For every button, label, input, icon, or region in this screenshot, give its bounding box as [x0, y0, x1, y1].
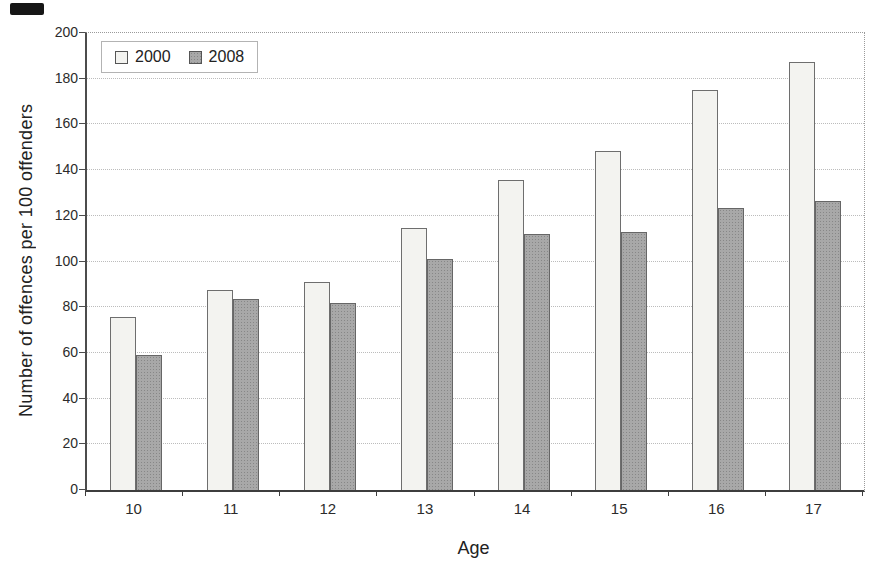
bar-group-age-15: [573, 33, 670, 490]
bar-2008-age-13: [427, 259, 453, 490]
bar-group-age-13: [378, 33, 475, 490]
bar-group-age-16: [670, 33, 767, 490]
legend: 2000 2008: [101, 41, 258, 73]
x-axis-title: Age: [85, 538, 862, 559]
bar-chart: Number of offences per 100 offenders 020…: [0, 0, 885, 569]
bar-2000-age-17: [789, 62, 815, 490]
bar-group-age-12: [281, 33, 378, 490]
x-tick-label-14: 14: [474, 499, 571, 519]
x-tick-label-15: 15: [571, 499, 668, 519]
y-tick-label-80: 80: [2, 298, 78, 314]
bar-2000-age-15: [595, 151, 621, 490]
y-tick-mark-180: [79, 78, 85, 79]
x-tick-label-12: 12: [279, 499, 376, 519]
bar-2000-age-13: [401, 228, 427, 490]
x-tick-mark-7: [765, 491, 766, 496]
x-tick-label-11: 11: [182, 499, 279, 519]
legend-swatch-2000: [115, 51, 128, 64]
y-tick-label-160: 160: [2, 115, 78, 131]
bar-group-age-11: [184, 33, 281, 490]
bar-group-age-17: [767, 33, 864, 490]
bar-2008-age-11: [233, 299, 259, 490]
x-tick-label-17: 17: [765, 499, 862, 519]
y-tick-label-180: 180: [2, 70, 78, 86]
scan-artifact: [10, 3, 44, 15]
x-tick-mark-4: [474, 491, 475, 496]
y-tick-label-120: 120: [2, 207, 78, 223]
bar-2008-age-15: [621, 232, 647, 490]
bar-2000-age-14: [498, 180, 524, 490]
bar-2000-age-10: [110, 317, 136, 490]
y-tick-label-20: 20: [2, 435, 78, 451]
legend-label-2000: 2000: [135, 48, 171, 66]
x-axis-tick-labels: 1011121314151617: [85, 499, 862, 519]
bar-2000-age-16: [692, 90, 718, 490]
x-tick-mark-5: [571, 491, 572, 496]
x-tick-label-10: 10: [85, 499, 182, 519]
x-tick-mark-6: [668, 491, 669, 496]
y-tick-mark-60: [79, 352, 85, 353]
y-tick-label-40: 40: [2, 390, 78, 406]
plot-area: [85, 32, 865, 492]
legend-label-2008: 2008: [209, 48, 245, 66]
y-tick-mark-160: [79, 123, 85, 124]
y-tick-mark-120: [79, 215, 85, 216]
y-tick-label-60: 60: [2, 344, 78, 360]
y-tick-mark-200: [79, 32, 85, 33]
x-tick-mark-8: [862, 491, 863, 496]
bar-2000-age-12: [304, 282, 330, 490]
bar-2000-age-11: [207, 290, 233, 490]
y-tick-mark-40: [79, 398, 85, 399]
x-tick-mark-1: [182, 491, 183, 496]
y-tick-mark-20: [79, 443, 85, 444]
bar-group-age-14: [476, 33, 573, 490]
bar-2008-age-14: [524, 234, 550, 490]
y-tick-label-200: 200: [2, 24, 78, 40]
y-tick-label-100: 100: [2, 253, 78, 269]
bars-row: [87, 33, 864, 490]
bar-2008-age-12: [330, 303, 356, 490]
y-tick-mark-0: [79, 489, 85, 490]
x-tick-mark-2: [279, 491, 280, 496]
bar-2008-age-10: [136, 355, 162, 490]
y-tick-label-0: 0: [2, 481, 78, 497]
bar-2008-age-17: [815, 201, 841, 490]
x-tick-label-13: 13: [376, 499, 473, 519]
legend-swatch-2008: [189, 51, 202, 64]
x-tick-mark-3: [376, 491, 377, 496]
y-tick-label-140: 140: [2, 161, 78, 177]
bar-2008-age-16: [718, 208, 744, 490]
x-tick-label-16: 16: [668, 499, 765, 519]
x-tick-mark-0: [85, 491, 86, 496]
y-tick-mark-100: [79, 261, 85, 262]
y-tick-mark-140: [79, 169, 85, 170]
bar-group-age-10: [87, 33, 184, 490]
y-tick-mark-80: [79, 306, 85, 307]
